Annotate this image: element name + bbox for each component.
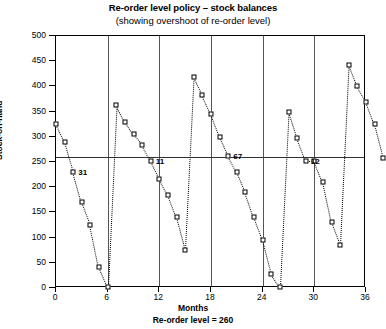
data-point-marker <box>234 170 239 175</box>
data-point-marker <box>346 62 351 67</box>
series-segment <box>322 182 332 223</box>
plot-area: 3111671223 <box>55 35 365 287</box>
data-point-marker <box>269 271 274 276</box>
data-point-marker <box>157 177 162 182</box>
data-point-marker <box>295 136 300 141</box>
chart-title: Re-order level policy – stock balances <box>0 2 386 13</box>
x-axis-title: Months <box>0 303 386 313</box>
series-segment <box>374 124 384 158</box>
y-tick-label: 450 <box>0 55 46 65</box>
data-point-label: 31 <box>78 167 87 176</box>
data-point-marker <box>372 122 377 127</box>
data-point-marker <box>320 180 325 185</box>
series-segment <box>185 77 195 250</box>
data-point-marker <box>140 142 145 147</box>
data-point-label: 11 <box>156 156 164 165</box>
y-tick-label: 400 <box>0 80 46 90</box>
series-segment <box>288 112 298 139</box>
chart-subtitle: (showing overshoot of re-order level) <box>0 15 386 26</box>
data-point-marker <box>191 75 196 80</box>
y-tick-label: 250 <box>0 156 46 166</box>
x-tick-mark <box>262 287 263 292</box>
y-tick-label: 200 <box>0 181 46 191</box>
data-point-marker <box>71 169 76 174</box>
x-tick-label: 18 <box>195 292 225 302</box>
series-segment <box>176 217 186 250</box>
data-point-marker <box>217 134 222 139</box>
data-point-marker <box>226 153 231 158</box>
data-point-marker <box>260 238 265 243</box>
data-point-marker <box>329 220 334 225</box>
x-tick-mark <box>210 287 211 292</box>
data-point-label: 12 <box>311 156 320 165</box>
x-tick-label: 0 <box>40 292 70 302</box>
y-tick-label: 300 <box>0 131 46 141</box>
data-point-marker <box>97 264 102 269</box>
x-tick-label: 6 <box>92 292 122 302</box>
data-point-marker <box>165 192 170 197</box>
y-tick-label: 150 <box>0 206 46 216</box>
grid-line-vertical <box>211 36 212 286</box>
data-point-marker <box>105 284 110 289</box>
x-tick-label: 12 <box>143 292 173 302</box>
data-point-marker <box>364 99 369 104</box>
x-tick-label: 30 <box>298 292 328 302</box>
series-segment <box>108 105 118 287</box>
chart-root: Re-order level policy – stock balances (… <box>0 0 386 329</box>
x-tick-mark <box>55 287 56 292</box>
data-point-marker <box>381 155 386 160</box>
data-point-marker <box>200 93 205 98</box>
y-tick-label: 100 <box>0 232 46 242</box>
series-segment <box>280 112 290 287</box>
data-point-marker <box>122 119 127 124</box>
data-point-label: 67 <box>233 151 242 160</box>
data-point-marker <box>148 158 153 163</box>
data-point-marker <box>183 248 188 253</box>
data-point-marker <box>209 112 214 117</box>
grid-line-vertical <box>108 36 109 286</box>
y-tick-label: 50 <box>0 257 46 267</box>
y-tick-label: 0 <box>0 282 46 292</box>
x-tick-label: 24 <box>247 292 277 302</box>
data-point-marker <box>252 215 257 220</box>
x-tick-mark <box>313 287 314 292</box>
data-point-marker <box>286 109 291 114</box>
series-segment <box>89 225 99 267</box>
data-point-marker <box>355 84 360 89</box>
series-segment <box>340 65 350 245</box>
data-point-marker <box>88 223 93 228</box>
y-tick-label: 350 <box>0 106 46 116</box>
data-point-marker <box>243 190 248 195</box>
data-point-marker <box>79 200 84 205</box>
x-tick-label: 36 <box>350 292 380 302</box>
x-tick-mark <box>365 287 366 292</box>
data-point-marker <box>62 139 67 144</box>
data-point-marker <box>277 284 282 289</box>
x-tick-mark <box>158 287 159 292</box>
data-point-marker <box>131 132 136 137</box>
data-point-marker <box>174 215 179 220</box>
data-point-marker <box>303 158 308 163</box>
series-segment <box>72 172 82 203</box>
data-point-marker <box>54 122 59 127</box>
reorder-level-footnote: Re-order level = 260 <box>0 315 386 325</box>
data-point-marker <box>338 243 343 248</box>
data-point-marker <box>114 103 119 108</box>
y-tick-label: 500 <box>0 30 46 40</box>
series-segment <box>244 192 254 218</box>
